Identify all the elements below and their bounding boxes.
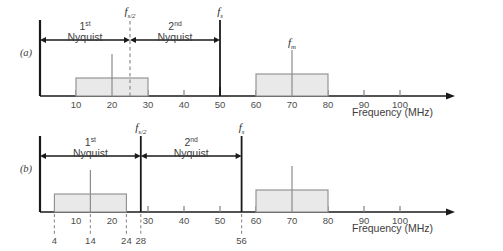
panel-a-fm-tone-label: fm (288, 36, 296, 50)
panel-b-tick-label-80: 80 (323, 215, 334, 226)
panel-a-tick-label-40: 40 (179, 99, 190, 110)
panel-a-first-nyquist-span-label: 1stNyquist (67, 20, 102, 43)
panel-a-first-nyquist-span-label-word: Nyquist (67, 31, 102, 43)
panel-b-tick-label-60: 60 (251, 215, 262, 226)
panel-b-tick-label-10: 10 (71, 215, 82, 226)
panel-a-fs-half-marker-label-text: fs/2 (125, 5, 137, 19)
panel-a-tick-label-20: 20 (107, 99, 118, 110)
panel-b-axis-title: Frequency (MHz) (352, 222, 433, 234)
panel-a-first-nyquist-span-arrow-head-1 (124, 37, 130, 43)
panel-a-tick-label-70: 70 (287, 99, 298, 110)
panel-a-fm-tone-label-text: fm (288, 36, 296, 50)
panel-a-fs-marker-label-text: fs (217, 5, 223, 19)
panel-a-second-nyquist-span-label: 2ndNyquist (157, 20, 192, 43)
panel-b-callout-4-label: 4 (52, 235, 57, 246)
panel-b-tick-label-30: 30 (143, 215, 154, 226)
panel-b-callout-14-label: 14 (85, 235, 96, 246)
panel-b-first-nyquist-span-label-word: Nyquist (73, 147, 108, 159)
panel-b-tick-label-20: 20 (107, 215, 118, 226)
panel-b-callout-24-label: 24 (121, 235, 132, 246)
nyquist-zone-figure: (a)102030405060708090100fmfs/2fs1stNyqui… (0, 0, 503, 251)
panel-b-tick-label-50: 50 (215, 215, 226, 226)
panel-a-axis-title: Frequency (MHz) (352, 106, 433, 118)
panel-a-tick-label-30: 30 (143, 99, 154, 110)
panel-b-second-nyquist-span-label: 2ndNyquist (174, 136, 209, 159)
panel-b-second-nyquist-span-label-word: Nyquist (174, 147, 209, 159)
panel-b-first-nyquist-span-label: 1stNyquist (73, 136, 108, 159)
panel-a-tick-label-10: 10 (71, 99, 82, 110)
panel-a-tick-label-50: 50 (215, 99, 226, 110)
panel-a-fs-half-marker-label: fs/2 (125, 5, 137, 19)
panel-a-fs-marker-label: fs (217, 5, 223, 19)
panel-b-fs-marker-label-text: fs (239, 121, 245, 135)
panel-b-callout-28-label: 28 (136, 235, 147, 246)
panel-b-fs-half-marker-label: fs/2 (135, 121, 147, 135)
panel-b-tick-label-40: 40 (179, 215, 190, 226)
panel-b-x-axis-arrow (446, 208, 455, 215)
panel-a-second-nyquist-span-label-word: Nyquist (157, 31, 192, 43)
figure-canvas: (a)102030405060708090100fmfs/2fs1stNyqui… (0, 0, 503, 251)
panel-b-label: (b) (20, 163, 33, 175)
panel-a-tick-label-60: 60 (251, 99, 262, 110)
panel-a-second-nyquist-span-arrow-head-0 (130, 37, 136, 43)
panel-b-fs-half-marker-label-text: fs/2 (135, 121, 147, 135)
panel-a-tick-label-80: 80 (323, 99, 334, 110)
panel-b-callout-56-label: 56 (236, 235, 247, 246)
panel-b-fs-marker-label: fs (239, 121, 245, 135)
panel-a-label: (a) (20, 47, 33, 59)
panel-a-x-axis-arrow (446, 92, 455, 99)
panel-b-tick-label-70: 70 (287, 215, 298, 226)
